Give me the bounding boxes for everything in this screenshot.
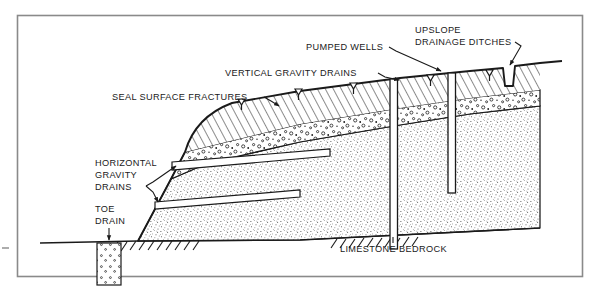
leader-horizontal-gravity-drains-lower <box>146 186 158 202</box>
label-horizontal-gravity-drains-line1: HORIZONTAL <box>95 158 157 168</box>
pumped-well-left[interactable] <box>390 79 398 249</box>
figure-canvas: UPSLOPE DRAINAGE DITCHES PUMPED WELLS VE… <box>0 0 593 296</box>
label-limestone-bedrock: LIMESTONE BEDROCK <box>340 244 447 254</box>
label-vertical-gravity-drains: VERTICAL GRAVITY DRAINS <box>225 68 357 78</box>
label-seal-surface-fractures: SEAL SURFACE FRACTURES <box>112 92 248 102</box>
toe-drain-group <box>97 243 121 285</box>
slope-drainage-cross-section-diagram: UPSLOPE DRAINAGE DITCHES PUMPED WELLS VE… <box>0 0 593 296</box>
label-horizontal-gravity-drains-line3: DRAINS <box>95 182 132 192</box>
label-toe-drain-line1: TOE <box>95 204 115 214</box>
toe-drain-trench[interactable] <box>97 243 121 285</box>
leader-upslope-drainage-ditches <box>510 42 521 65</box>
label-horizontal-gravity-drains-line2: GRAVITY <box>95 170 137 180</box>
label-upslope-line1: UPSLOPE <box>415 25 461 35</box>
label-upslope-line2: DRAINAGE DITCHES <box>415 37 511 47</box>
label-toe-drain-line2: DRAIN <box>95 216 125 226</box>
toe-ground-line <box>40 241 138 243</box>
pumped-well-right[interactable] <box>448 73 456 193</box>
leader-pumped-wells <box>389 47 441 71</box>
label-pumped-wells: PUMPED WELLS <box>306 42 383 52</box>
